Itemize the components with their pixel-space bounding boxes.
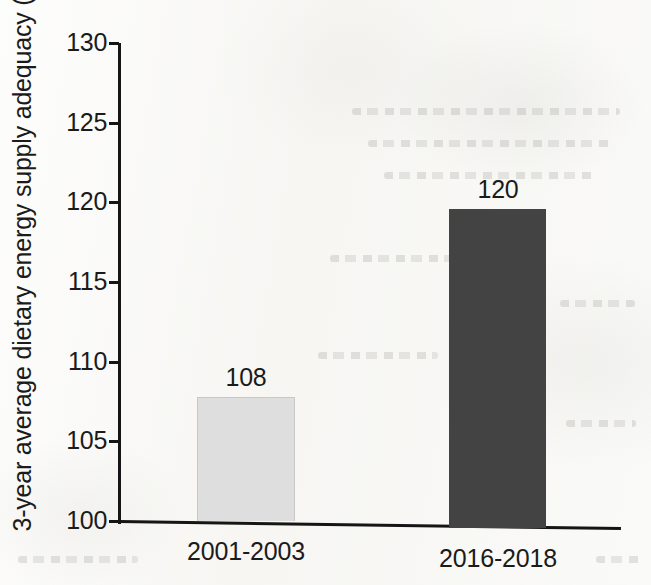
- x-axis-category-label: 2001-2003: [156, 537, 336, 566]
- bar[interactable]: [197, 397, 295, 521]
- y-axis-tick-mark: [109, 440, 119, 443]
- bar-value-label: 120: [438, 175, 558, 204]
- y-axis-tick-label: 125: [0, 108, 119, 137]
- y-axis-tick-label: 110: [0, 347, 119, 376]
- bar-value-label: 108: [186, 363, 306, 392]
- bar-chart-plot-area: 3-year average dietary energy supply ade…: [0, 0, 651, 585]
- y-axis-tick-label: 100: [0, 506, 119, 535]
- x-axis-category-label: 2016-2018: [408, 544, 588, 573]
- bar[interactable]: [449, 209, 546, 528]
- y-axis-tick-label: 105: [0, 426, 119, 455]
- y-axis-tick-label: 115: [0, 267, 119, 296]
- y-axis-tick-mark: [109, 42, 119, 45]
- y-axis-tick-mark: [109, 122, 119, 125]
- y-axis-tick-label: 130: [0, 28, 119, 57]
- chart-page: 3-year average dietary energy supply ade…: [0, 0, 651, 585]
- y-axis-tick-mark: [109, 281, 119, 284]
- y-axis-tick-label: 120: [0, 187, 119, 216]
- y-axis-tick-mark: [109, 201, 119, 204]
- y-axis-tick-mark: [109, 520, 119, 523]
- y-axis-tick-mark: [109, 361, 119, 364]
